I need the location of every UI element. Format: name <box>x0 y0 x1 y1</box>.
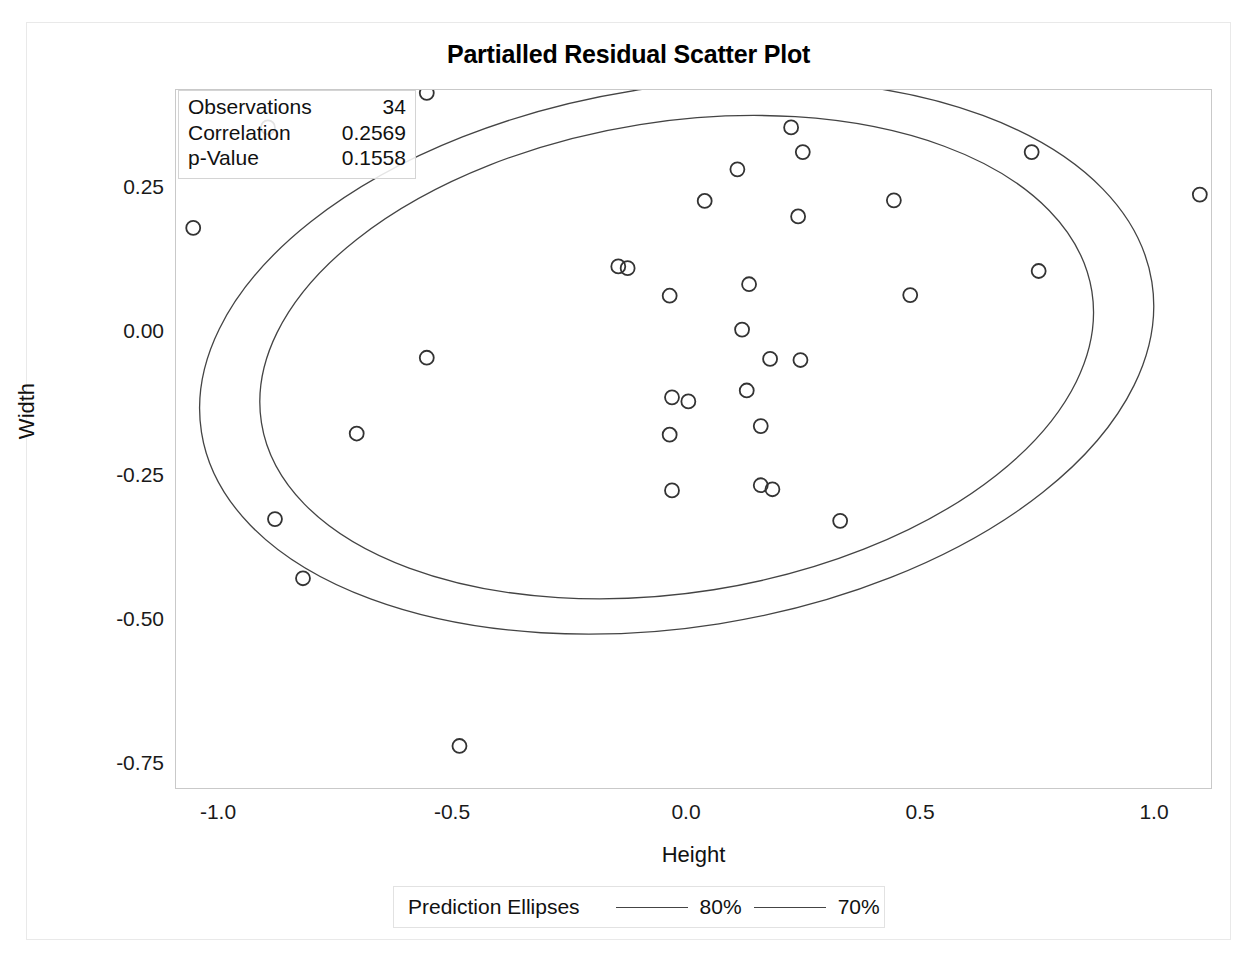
scatter-point <box>1025 145 1039 159</box>
scatter-point <box>420 90 434 100</box>
scatter-point <box>621 261 635 275</box>
legend-line-swatch <box>616 907 688 908</box>
legend-entry-70[interactable]: 70% <box>742 895 880 919</box>
y-tick-label-2: -0.25 <box>116 463 164 487</box>
scatter-markers-layer <box>186 90 1207 753</box>
scatter-point <box>740 383 754 397</box>
plot-canvas <box>176 90 1211 788</box>
legend-entry-label: 80% <box>700 895 742 919</box>
y-tick-label-0: 0.25 <box>123 175 164 199</box>
legend-title: Prediction Ellipses <box>408 895 580 919</box>
statistic-label: Observations <box>188 95 342 121</box>
legend-entry-label: 70% <box>838 895 880 919</box>
scatter-point <box>763 352 777 366</box>
scatter-point <box>833 514 847 528</box>
legend-line-swatch <box>754 907 826 908</box>
page-title: Partialled Residual Scatter Plot <box>0 40 1257 69</box>
chart-page: Partialled Residual Scatter Plot Width H… <box>0 0 1257 964</box>
scatter-point <box>698 194 712 208</box>
scatter-point <box>268 512 282 526</box>
scatter-point <box>742 277 756 291</box>
scatter-point <box>730 162 744 176</box>
scatter-point <box>754 419 768 433</box>
x-tick-label-4: 1.0 <box>1139 800 1168 824</box>
x-tick-label-2: 0.0 <box>671 800 700 824</box>
scatter-point <box>665 483 679 497</box>
statistic-value: 0.2569 <box>342 121 406 147</box>
scatter-point <box>791 209 805 223</box>
scatter-point <box>784 120 798 134</box>
scatter-point <box>887 193 901 207</box>
scatter-point <box>735 323 749 337</box>
statistics-row: p-Value0.1558 <box>188 146 406 172</box>
scatter-point <box>186 221 200 235</box>
statistic-value: 34 <box>342 95 406 121</box>
y-axis-tick-labels: 0.250.00-0.25-0.50-0.75 <box>90 89 164 789</box>
legend-entry-80[interactable]: 80% <box>604 895 742 919</box>
scatter-point <box>350 427 364 441</box>
x-tick-label-1: -0.5 <box>434 800 470 824</box>
scatter-point <box>663 428 677 442</box>
x-axis-tick-labels: -1.0-0.50.00.51.0 <box>175 800 1212 830</box>
scatter-point <box>420 351 434 365</box>
x-tick-label-0: -1.0 <box>200 800 236 824</box>
scatter-point <box>793 353 807 367</box>
scatter-point <box>796 145 810 159</box>
statistics-row: Observations34 <box>188 95 406 121</box>
y-tick-label-1: 0.00 <box>123 319 164 343</box>
y-tick-label-4: -0.75 <box>116 751 164 775</box>
y-tick-label-3: -0.50 <box>116 607 164 631</box>
plot-area <box>175 89 1212 789</box>
scatter-point <box>611 259 625 273</box>
scatter-point <box>765 482 779 496</box>
statistic-label: Correlation <box>188 121 342 147</box>
scatter-point <box>296 571 310 585</box>
scatter-point <box>452 739 466 753</box>
statistic-value: 0.1558 <box>342 146 406 172</box>
statistic-label: p-Value <box>188 146 342 172</box>
scatter-point <box>903 288 917 302</box>
scatter-point <box>1193 188 1207 202</box>
statistics-row: Correlation0.2569 <box>188 121 406 147</box>
scatter-point <box>681 394 695 408</box>
legend-entries: 80%70% <box>604 895 880 919</box>
y-axis-title: Width <box>14 351 40 471</box>
statistics-inset-box: Observations34Correlation0.2569p-Value0.… <box>178 90 416 179</box>
statistics-table: Observations34Correlation0.2569p-Value0.… <box>188 95 406 172</box>
scatter-point <box>1032 264 1046 278</box>
x-axis-title: Height <box>175 842 1212 868</box>
x-tick-label-3: 0.5 <box>905 800 934 824</box>
scatter-point <box>663 289 677 303</box>
scatter-point <box>665 390 679 404</box>
legend: Prediction Ellipses 80%70% <box>393 886 885 928</box>
